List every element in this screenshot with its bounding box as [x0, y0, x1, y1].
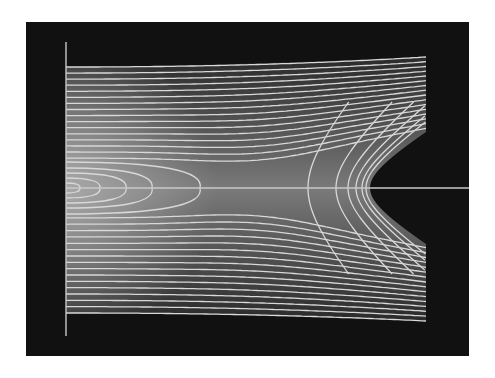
contour-figure [0, 0, 495, 378]
